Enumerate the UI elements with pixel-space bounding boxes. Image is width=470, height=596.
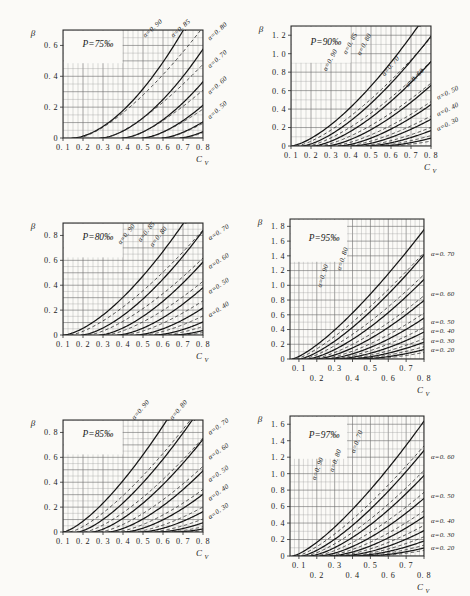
y-tick-label: 0. 2 (271, 340, 285, 349)
plot-title: P=85‰ (82, 429, 114, 439)
curve-solid (307, 279, 424, 359)
plot-title: P=95‰ (308, 233, 340, 243)
curve-alpha-label: α=0. 90 (141, 17, 163, 38)
svg-text:C: C (417, 385, 424, 395)
y-tick-label: 1. 6 (271, 420, 285, 429)
x-tick-label: 0. 5 (364, 151, 378, 160)
x-tick-label-lower: 0. 2 (310, 571, 324, 580)
curve-alpha-label-right: α=0. 50 (435, 84, 459, 101)
y-tick-label: 0 (282, 142, 287, 151)
x-tick-label-lower: 0. 8 (417, 374, 431, 383)
x-tick-label-upper: 0. 3 (328, 561, 342, 570)
x-tick-label: 0. 1 (56, 143, 70, 152)
y-tick-label: 0. 2 (44, 306, 58, 315)
curve-alpha-label-right: α=0. 30 (207, 501, 231, 520)
x-tick-label-upper: 0. 3 (328, 364, 342, 373)
x-tick-label: 0. 2 (76, 340, 90, 349)
x-tick-label-upper: 0. 1 (292, 364, 306, 373)
y-tick-label: 0. 6 (44, 41, 58, 50)
x-tick-label: 0. 5 (136, 143, 150, 152)
curve-alpha-label-right: α=0. 50 (207, 276, 231, 295)
curve-alpha-label-right: α=0. 60 (207, 251, 231, 270)
curve-alpha-label-right: α=0. 50 (431, 492, 455, 499)
x-axis-ticks: 0. 10. 30. 50. 70. 20. 40. 60. 8 (292, 359, 431, 383)
curve-alpha-label-right: α=0. 40 (207, 482, 231, 501)
x-tick-label: 0. 4 (344, 151, 358, 160)
x-tick-label: 0. 5 (136, 340, 150, 349)
svg-text:C: C (196, 548, 203, 558)
plot-title: P=97‰ (308, 430, 340, 440)
x-tick-label: 0. 1 (284, 151, 298, 160)
x-tick-label: 0. 7 (176, 537, 190, 546)
x-tick-label: 0. 7 (176, 340, 190, 349)
plot-title: P=90‰ (310, 37, 342, 47)
plot-title: P=75‰ (82, 39, 114, 49)
svg-text:C: C (417, 582, 424, 592)
svg-text:V: V (426, 588, 431, 594)
curve-alpha-label-right: α=0. 40 (431, 517, 455, 524)
y-tick-label: 1. 8 (271, 222, 285, 231)
y-tick-label: 0 (54, 528, 59, 537)
x-axis-label: CV (417, 385, 431, 397)
x-tick-label: 0. 4 (116, 537, 130, 546)
x-tick-label-upper: 0. 7 (399, 561, 413, 570)
x-tick-label-lower: 0. 6 (381, 374, 395, 383)
curve-alpha-label: α=0. 90 (310, 456, 325, 481)
y-tick-label: 1. 0 (271, 281, 285, 290)
x-tick-label-lower: 0. 8 (417, 571, 431, 580)
x-tick-label: 0. 2 (304, 151, 318, 160)
x-axis-ticks: 0. 10. 20. 30. 40. 50. 60. 70. 8 (284, 146, 438, 160)
x-tick-label: 0. 1 (56, 340, 70, 349)
curve-alpha-label-right: α=0. 30 (431, 337, 455, 344)
y-axis-label: β (30, 221, 36, 231)
y-tick-label: 0. 6 (44, 453, 58, 462)
curve-alpha-label-right: α=0. 70 (206, 48, 228, 69)
y-tick-label: 1. 2 (272, 31, 286, 40)
y-axis-label: β (30, 418, 36, 428)
svg-text:C: C (196, 154, 203, 164)
x-axis-label: CV (424, 162, 438, 174)
x-tick-label-upper: 0. 5 (363, 364, 377, 373)
x-tick-label-lower: 0. 4 (346, 571, 360, 580)
svg-text:V: V (433, 168, 438, 174)
curve-alpha-label: α=0. 90 (315, 263, 329, 288)
curve-alpha-label-right: α=0. 70 (207, 222, 231, 241)
x-tick-label: 0. 5 (136, 537, 150, 546)
curve-alpha-label-right: α=0. 50 (206, 99, 228, 120)
x-axis-label: CV (196, 351, 210, 363)
curve-alpha-label-right: α=0. 20 (431, 346, 455, 353)
x-axis-label: CV (196, 548, 210, 560)
y-tick-label: 0. 6 (271, 311, 285, 320)
y-tick-label: 0. 8 (271, 486, 285, 495)
y-tick-label: 0. 8 (271, 296, 285, 305)
x-tick-label: 0. 7 (176, 143, 190, 152)
curve-alpha-label-right: α=0. 30 (431, 531, 455, 538)
y-tick-label: 1. 4 (271, 252, 285, 261)
y-axis-ticks: 00. 20. 40. 60. 81. 01. 21. 41. 6 (271, 420, 290, 561)
y-tick-label: 0. 8 (272, 68, 286, 77)
chart-panel-p97: P=97‰00. 20. 40. 60. 81. 01. 21. 41. 6β0… (248, 402, 468, 592)
x-tick-label: 0. 8 (196, 143, 210, 152)
x-tick-label: 0. 6 (156, 537, 170, 546)
y-tick-label: 0. 8 (44, 428, 58, 437)
y-axis-ticks: 00. 20. 40. 6 (44, 41, 63, 143)
y-tick-label: 0. 2 (271, 535, 285, 544)
chart-panel-p95: P=95‰00. 20. 40. 60. 81. 01. 21. 41. 61.… (248, 205, 468, 395)
curve-alpha-label: α=0. 80 (168, 398, 189, 421)
x-tick-label: 0. 8 (424, 151, 438, 160)
y-tick-label: 0. 4 (271, 325, 285, 334)
y-tick-label: 0. 4 (272, 105, 286, 114)
x-tick-label: 0. 2 (76, 537, 90, 546)
curve-alpha-label-right: α=0. 40 (207, 300, 231, 319)
y-tick-label: 0. 4 (44, 281, 58, 290)
curve-alpha-label-right: α=0. 70 (431, 250, 455, 257)
x-tick-label: 0. 3 (324, 151, 338, 160)
curve-dashed (146, 109, 203, 138)
x-tick-label-upper: 0. 5 (363, 561, 377, 570)
y-tick-label: 1. 4 (271, 437, 285, 446)
y-axis-label: β (257, 217, 263, 227)
x-tick-label: 0. 2 (76, 143, 90, 152)
curve-alpha-label-right: α=0. 20 (431, 544, 455, 551)
chart-panel-p85: P=85‰00. 20. 40. 60. 8β0. 10. 20. 30. 40… (18, 402, 238, 592)
y-tick-label: 0 (281, 355, 286, 364)
